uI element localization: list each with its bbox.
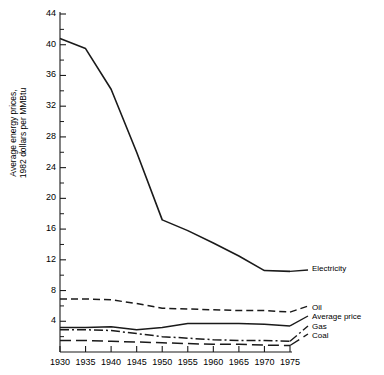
legend-label-average-price: Average price	[312, 312, 361, 321]
series-line-average-price	[60, 324, 290, 330]
legend-text-electricity: Electricity	[312, 264, 346, 273]
data-series-lines	[60, 39, 290, 346]
x-tick-label: 1965	[226, 357, 252, 367]
y-tick-label: 8	[51, 285, 56, 295]
y-tick-label: 16	[46, 223, 56, 233]
x-tick-label: 1975	[277, 357, 303, 367]
legend-leader-gas	[290, 326, 308, 341]
y-axis-label-line-1: Average energy prices,	[8, 68, 18, 198]
x-tick-label: 1930	[47, 357, 73, 367]
y-tick-label: 40	[46, 39, 56, 49]
y-axis-label: Average energy prices, 1982 dollars per …	[8, 68, 34, 198]
x-tick-label: 1945	[124, 357, 150, 367]
x-tick-label: 1960	[200, 357, 226, 367]
series-line-gas	[60, 330, 290, 342]
y-tick-label: 44	[46, 8, 56, 18]
legend-label-oil: Oil	[312, 303, 322, 312]
x-tick-label: 1940	[98, 357, 124, 367]
series-line-electricity	[60, 39, 290, 272]
legend-label-electricity: Electricity	[312, 264, 346, 273]
legend-leader-oil	[290, 306, 308, 312]
y-tick-label: 24	[46, 162, 56, 172]
y-tick-label: 36	[46, 69, 56, 79]
series-line-oil	[60, 299, 290, 312]
legend-text-average-price: Average price	[312, 312, 361, 321]
y-tick-label: 32	[46, 100, 56, 110]
x-tick-label: 1955	[175, 357, 201, 367]
y-tick-label: 12	[46, 254, 56, 264]
legend-text-gas: Gas	[312, 322, 327, 331]
legend-label-gas: Gas	[312, 322, 327, 331]
energy-prices-chart-figure: Average energy prices, 1982 dollars per …	[0, 0, 384, 375]
legend-text-oil: Oil	[312, 303, 322, 312]
legend-text-coal: Coal	[312, 331, 328, 340]
legend-leader-average-price	[290, 316, 308, 326]
legend-label-coal: Coal	[312, 331, 328, 340]
x-tick-label: 1935	[73, 357, 99, 367]
x-axis-ticks	[60, 346, 290, 352]
y-tick-label: 20	[46, 192, 56, 202]
y-tick-label: 28	[46, 131, 56, 141]
y-tick-label: 4	[51, 315, 56, 325]
x-tick-label: 1970	[251, 357, 277, 367]
legend-leader-lines	[290, 270, 308, 345]
y-axis-label-line-2: 1982 dollars per MMBtu	[18, 68, 28, 198]
legend-leader-electricity	[290, 270, 308, 271]
x-tick-label: 1950	[149, 357, 175, 367]
